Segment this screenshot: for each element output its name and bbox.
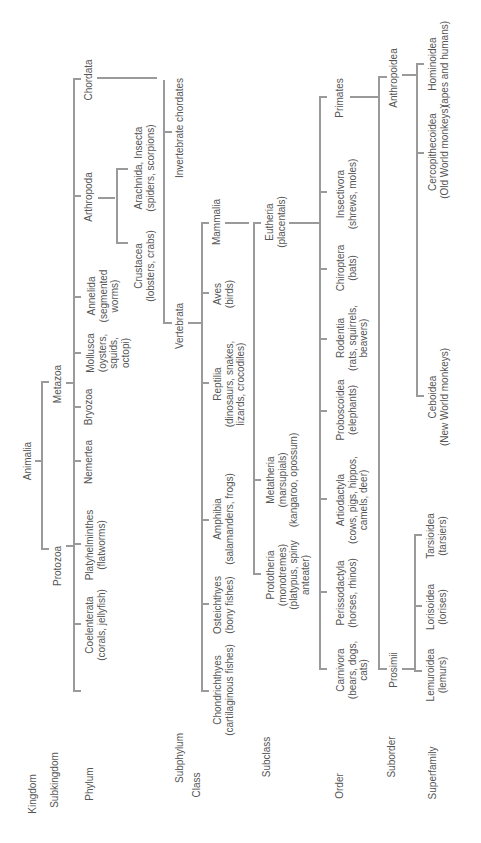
connector	[73, 543, 81, 545]
bracket-chordata	[163, 80, 165, 324]
rank-kingdom: Kingdom	[27, 774, 39, 813]
bracket-prosimii	[414, 534, 416, 672]
connector	[319, 410, 327, 412]
connector	[163, 131, 172, 133]
superfamily-lemuroidea: Lemuroidea (lemurs)	[425, 649, 448, 702]
bracket-orders	[319, 96, 321, 670]
class-mammalia: Mammalia	[211, 199, 223, 245]
connector	[416, 63, 424, 65]
rank-subphylum: Subphylum	[174, 733, 186, 783]
connector	[416, 395, 424, 397]
rank-superfamily: Superfamily	[427, 747, 439, 800]
order-artiodactyla: Artiodactyla (cows, pigs, hippos, camels…	[335, 456, 370, 544]
suborder-anthropoidea: Anthropoidea	[388, 48, 400, 108]
bracket-subclasses	[253, 222, 255, 575]
connector	[319, 338, 327, 340]
connector	[253, 222, 261, 224]
phylum-bryozoa: Bryozoa	[83, 389, 95, 426]
subkingdom-protozoa: Protozoa	[52, 546, 64, 586]
connector	[73, 623, 81, 625]
subphylum-vertebrata: Vertebrata	[174, 303, 186, 349]
connector	[201, 519, 209, 521]
phylum-platyhelminthes: Platyhelminthes (flatworms)	[84, 510, 107, 581]
bracket-animalia	[41, 381, 43, 550]
order-carnivora: Carnivora (bears, dogs, cats)	[335, 641, 370, 699]
order-chiroptera: Chiroptera (bats)	[335, 245, 358, 292]
phylum-coelenterata: Coelenterata (corals, jellyfish)	[84, 589, 107, 661]
connector	[253, 479, 261, 481]
subclass-metatheria: Metatheria (marsupials) (kangaroo, oposs…	[265, 433, 300, 528]
connector	[319, 498, 327, 500]
connector	[319, 668, 327, 670]
connector	[98, 197, 115, 199]
connector	[73, 690, 81, 692]
subkingdom-metazoa: Metazoa	[52, 365, 64, 403]
connector	[73, 78, 81, 80]
connector	[319, 268, 327, 270]
superfamily-cercopithecoidea: Cercopithecoidea (Old World monkeys)	[427, 105, 450, 199]
connector	[201, 292, 209, 294]
connector	[163, 322, 172, 324]
phylum-nemertea: Nemertea	[83, 440, 95, 484]
connector	[116, 168, 128, 170]
superfamily-lorisoidea: Lorisoidea (lorises)	[425, 584, 448, 630]
rank-subkingdom: Subkingdom	[49, 752, 61, 808]
bracket-suborders	[378, 76, 380, 670]
connector	[73, 195, 81, 197]
connector	[414, 534, 422, 536]
connector	[319, 191, 327, 193]
phylum-chordata: Chordata	[83, 59, 95, 100]
bracket-arthropoda	[116, 168, 118, 244]
connector	[253, 573, 261, 575]
rank-suborder: Suborder	[386, 736, 398, 777]
connector	[201, 690, 209, 692]
bracket-phyla	[73, 78, 75, 692]
connector	[402, 74, 416, 76]
subclass-prototheria: Prototheria (monotremes) (platypus, spin…	[265, 540, 311, 609]
connector	[73, 406, 81, 408]
class-aves: Aves (birds)	[212, 280, 235, 308]
connector	[414, 670, 422, 672]
order-perissodactyla: Perissodactyla (horses, rhinos)	[335, 558, 358, 627]
connector	[414, 605, 422, 607]
rank-order: Order	[334, 773, 346, 799]
connector	[73, 460, 81, 462]
arachnida-insecta: Arachnida, Insecta (spiders, scorpions)	[133, 124, 156, 211]
class-chondrichthyes: Chondrichthyes (cartilaginous fishes)	[212, 644, 235, 736]
crustacea: Crustacea (lobsters, crabs)	[133, 230, 156, 302]
order-rodentia: Rodentia (rats, squirrels, beavers)	[335, 305, 370, 371]
connector	[41, 548, 49, 550]
rank-class: Class	[191, 772, 203, 797]
order-primates: Primates	[334, 78, 346, 117]
phylum-mollusca: Mollusca (oysters, squids, octopi)	[85, 333, 131, 372]
connector	[225, 222, 249, 224]
connector	[416, 152, 424, 154]
superfamily-ceboidea: Ceboidea (New World monkeys)	[427, 348, 450, 446]
connector	[319, 96, 327, 98]
bracket-anthropoidea	[416, 63, 418, 397]
order-proboscoidea: Proboscoidea (elephants)	[335, 379, 358, 440]
kingdom-animalia: Animalia	[22, 442, 34, 480]
superfamily-hominoidea: Hominoidea (apes and humans)	[427, 21, 450, 107]
connector	[97, 77, 157, 79]
rank-phylum: Phylum	[84, 767, 96, 800]
connector	[289, 222, 319, 224]
order-insectivora: Insectivora (shrews, moles)	[335, 159, 358, 230]
subphylum-invertebrate-chordates: Invertebrate chordates	[174, 78, 186, 178]
connector	[73, 296, 81, 298]
connector	[73, 352, 81, 354]
connector	[201, 603, 209, 605]
connector	[350, 96, 379, 98]
class-reptilia: Reptilia (dinosaurs, snakes, lizards, cr…	[212, 341, 247, 428]
rank-subclass: Subclass	[261, 737, 273, 778]
connector	[201, 222, 209, 224]
suborder-prosimii: Prosimii	[388, 652, 400, 688]
class-osteichthyes: Osteichthyes (bony fishes)	[212, 576, 235, 634]
superfamily-tarsioidea: Tarsioidea (tarsiers)	[425, 513, 448, 559]
connector	[201, 382, 209, 384]
subclass-eutheria: Eutheria (placentals)	[264, 196, 287, 248]
connector	[116, 242, 128, 244]
connector	[378, 668, 387, 670]
class-amphibia: Amphibia (salamanders, frogs)	[212, 473, 235, 565]
phylum-annelida: Annelida (segmented worms)	[86, 270, 121, 323]
